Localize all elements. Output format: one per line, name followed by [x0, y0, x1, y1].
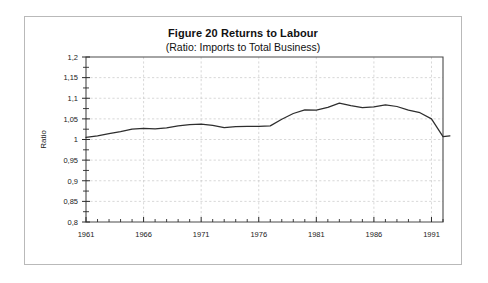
x-tick-label: 1981: [308, 230, 325, 239]
data-series: [86, 103, 450, 137]
y-axis-title: Ratio: [39, 130, 48, 149]
x-axis-tick-labels: 1961196619711976198119861991: [78, 230, 440, 239]
y-tick-label: 0,9: [68, 177, 78, 186]
y-tick-label: 0,85: [63, 197, 78, 206]
chart-plot: 1,21,151,11,0510,950,90,850,8 1961196619…: [0, 0, 488, 283]
x-tick-label: 1961: [78, 230, 95, 239]
y-tick-label: 1,05: [63, 115, 78, 124]
x-tick-label: 1966: [135, 230, 152, 239]
y-axis-tick-labels: 1,21,151,11,0510,950,90,850,8: [63, 53, 78, 227]
y-tick-label: 1,2: [68, 53, 78, 62]
y-tick-label: 0,95: [63, 156, 78, 165]
y-tick-label: 1,1: [68, 94, 78, 103]
x-tick-label: 1971: [193, 230, 210, 239]
y-tick-label: 0,8: [68, 218, 78, 227]
y-tick-label: 1: [74, 135, 78, 144]
x-tick-label: 1986: [366, 230, 383, 239]
x-tick-label: 1976: [250, 230, 267, 239]
y-tick-label: 1,15: [63, 73, 78, 82]
series-line: [86, 103, 450, 137]
gridlines: [86, 57, 443, 222]
y-axis-label: Ratio: [39, 130, 48, 149]
x-tick-label: 1991: [423, 230, 440, 239]
